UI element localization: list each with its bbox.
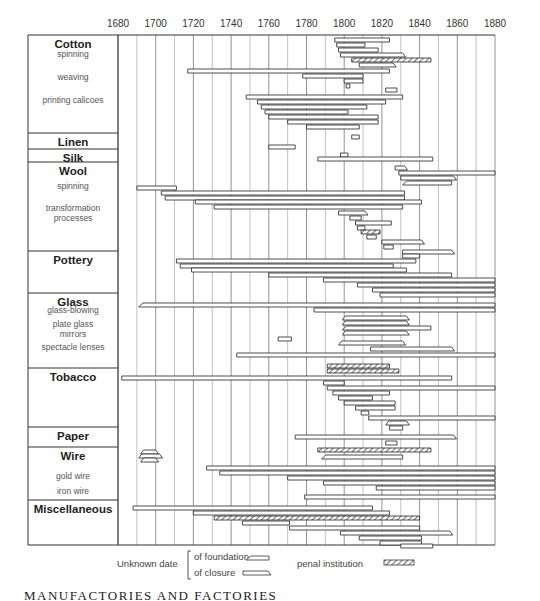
bar-closure_unknown bbox=[395, 166, 407, 170]
bar-closure_unknown bbox=[371, 347, 455, 351]
x-tick-label: 1780 bbox=[295, 18, 318, 29]
bar-normal bbox=[352, 135, 360, 139]
legend-unknown-label: Unknown date bbox=[117, 558, 178, 569]
bar-closure_unknown bbox=[403, 250, 455, 254]
bar-normal bbox=[403, 254, 420, 258]
bar-normal bbox=[165, 196, 404, 200]
bar-normal bbox=[180, 264, 393, 268]
bar-normal bbox=[386, 88, 397, 92]
bar-normal bbox=[290, 526, 420, 530]
bar-normal bbox=[376, 486, 495, 490]
bar-normal bbox=[384, 245, 393, 249]
bar-normal bbox=[269, 273, 452, 277]
bar-normal bbox=[357, 283, 495, 287]
category-label: Pottery bbox=[53, 254, 93, 266]
x-tick-label: 1880 bbox=[484, 18, 507, 29]
x-tick-label: 1700 bbox=[145, 18, 168, 29]
category-miscellaneous: Miscellaneous bbox=[28, 500, 118, 515]
x-tick-label: 1840 bbox=[408, 18, 431, 29]
legend-closure-swatch-icon bbox=[243, 571, 271, 575]
bar-both_unknown bbox=[141, 450, 159, 454]
bar-closure_unknown bbox=[339, 211, 368, 215]
bar-normal bbox=[303, 74, 363, 78]
bar-normal bbox=[337, 43, 365, 47]
bar-normal bbox=[333, 391, 390, 395]
bar-normal bbox=[339, 48, 379, 52]
x-tick-label: 1860 bbox=[446, 18, 469, 29]
bar-both_unknown bbox=[339, 341, 406, 345]
legend: Unknown date of foundation of closure pe… bbox=[117, 551, 414, 579]
bar-normal bbox=[265, 110, 348, 114]
bar-normal bbox=[350, 216, 361, 220]
legend-penal-label: penal institution bbox=[297, 558, 363, 569]
subcategory-label: glass-blowing bbox=[47, 305, 99, 315]
bar-both_unknown bbox=[386, 421, 410, 425]
bar-normal bbox=[340, 153, 348, 157]
bar-normal bbox=[122, 376, 452, 380]
legend-penal-swatch-icon bbox=[384, 560, 414, 565]
bar-penal bbox=[327, 364, 389, 368]
subcategory-label: mirrors bbox=[60, 329, 86, 339]
bar-foundation_unknown bbox=[342, 326, 431, 330]
bar-normal bbox=[323, 278, 495, 282]
bar-normal bbox=[242, 521, 289, 525]
bar-normal bbox=[188, 69, 390, 73]
category-label: Wire bbox=[61, 450, 86, 462]
legend-foundation-swatch-icon bbox=[246, 556, 269, 560]
bar-normal bbox=[195, 200, 421, 204]
bar-closure_unknown bbox=[340, 53, 405, 57]
bar-normal bbox=[357, 226, 365, 230]
bar-normal bbox=[176, 259, 415, 263]
bar-normal bbox=[335, 38, 390, 42]
subcategory-label: spinning bbox=[57, 181, 89, 191]
bar-normal bbox=[359, 536, 421, 540]
bar-normal bbox=[386, 441, 397, 445]
bar-normal bbox=[269, 115, 378, 119]
bar-normal bbox=[193, 511, 389, 515]
bar-closure_unknown bbox=[359, 63, 396, 67]
category-pottery: Pottery bbox=[28, 251, 118, 266]
subcategory-label: processes bbox=[54, 213, 93, 223]
bar-normal bbox=[318, 157, 433, 161]
gantt-chart: 1680170017201740176017801800182018401860… bbox=[0, 0, 540, 601]
category-tobacco: Tobacco bbox=[28, 368, 118, 383]
bar-normal bbox=[314, 308, 495, 312]
bar-normal bbox=[361, 411, 369, 415]
bar-normal bbox=[344, 79, 363, 83]
x-tick-label: 1680 bbox=[107, 18, 130, 29]
bar-both_unknown bbox=[342, 316, 409, 320]
bar-penal bbox=[361, 230, 380, 234]
bar-normal bbox=[367, 235, 376, 239]
bar-normal bbox=[246, 95, 402, 99]
bar-normal bbox=[389, 426, 402, 430]
x-tick-label: 1720 bbox=[182, 18, 205, 29]
bar-normal bbox=[207, 466, 495, 470]
bar-normal bbox=[369, 416, 495, 420]
category-label: Miscellaneous bbox=[34, 503, 113, 515]
bar-both_unknown bbox=[139, 454, 163, 458]
bar-normal bbox=[346, 84, 350, 88]
category-column: Cottonspinningweavingprinting calicoesLi… bbox=[28, 38, 118, 515]
subcategory-label: plate glass bbox=[53, 319, 94, 329]
bar-normal bbox=[344, 401, 395, 405]
category-linen: Linen bbox=[28, 133, 118, 148]
bar-normal bbox=[192, 268, 407, 272]
bar-foundation_unknown bbox=[322, 455, 403, 459]
legend-bracket bbox=[188, 551, 191, 579]
bar-normal bbox=[401, 544, 433, 548]
bar-both_unknown bbox=[342, 321, 409, 325]
bar-penal bbox=[214, 516, 419, 520]
category-glass: Glassglass-blowingplate glassmirrorsspec… bbox=[28, 293, 118, 352]
bar-closure_unknown bbox=[340, 531, 452, 535]
bar-normal bbox=[220, 471, 495, 475]
bar-normal bbox=[356, 221, 392, 225]
bar-normal bbox=[323, 381, 344, 385]
bar-penal bbox=[318, 448, 431, 452]
bar-normal bbox=[356, 406, 396, 410]
category-label: Linen bbox=[58, 136, 89, 148]
bar-normal bbox=[161, 191, 404, 195]
bar-normal bbox=[327, 386, 495, 390]
x-tick-label: 1760 bbox=[258, 18, 281, 29]
category-paper: Paper bbox=[28, 427, 118, 442]
subcategory-label: spectacle lenses bbox=[42, 342, 105, 352]
